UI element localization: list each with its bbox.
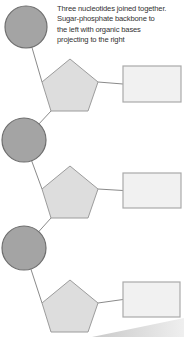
sugar-pentagon-2: [42, 166, 98, 218]
caption-line-2: Sugar-phosphate backbone to: [57, 14, 184, 24]
sugar-pentagon-3: [42, 280, 98, 332]
caption-line-1: Three nucleotides joined together.: [57, 4, 184, 14]
sugar-base-bond-line-1: [98, 82, 123, 84]
page-corner-shadow: [92, 318, 184, 337]
caption-line-3: the left with organic bases: [57, 25, 184, 35]
organic-base-rectangle-2: [123, 173, 181, 208]
phosphate-circle-2: [2, 118, 46, 162]
phosphate-circle-1: [5, 6, 47, 48]
phosphate-circle-3: [2, 226, 46, 270]
nucleotide-diagram-figure: Three nucleotides joined together. Sugar…: [0, 0, 184, 337]
sugar-pentagon-1: [42, 59, 98, 111]
sugar-base-bond-line-2: [98, 189, 123, 191]
organic-base-rectangle-3: [123, 282, 180, 317]
caption: Three nucleotides joined together. Sugar…: [57, 4, 184, 46]
nucleotide-diagram: [0, 0, 184, 337]
caption-line-4: projecting to the right: [57, 35, 184, 45]
organic-base-rectangle-1: [123, 66, 181, 102]
sugar-base-bond-line-3: [98, 300, 123, 304]
